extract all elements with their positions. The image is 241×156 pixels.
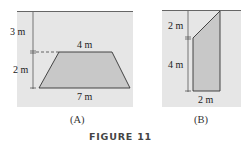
label-bottom-width-a: 7 m	[77, 91, 93, 102]
label-height-a: 2 m	[13, 64, 29, 75]
trapezoid-plate-b	[193, 11, 220, 91]
label-top-width-a: 4 m	[77, 39, 93, 50]
figure-title: FIGURE 11	[0, 131, 241, 142]
caption-b: (B)	[194, 114, 208, 125]
caption-a: (A)	[70, 114, 85, 125]
trapezoid-plate-a	[39, 52, 130, 88]
label-depth-a: 3 m	[10, 26, 26, 37]
label-bottom-width-b: 2 m	[198, 94, 214, 105]
label-vertical-b: 4 m	[168, 59, 184, 70]
label-top-slope-b: 2 m	[168, 20, 184, 31]
